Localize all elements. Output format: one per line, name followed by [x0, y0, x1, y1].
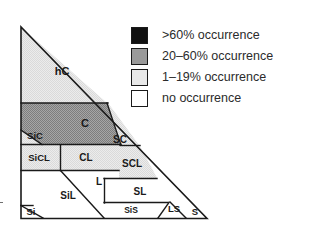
region-label-LS: LS — [168, 203, 180, 214]
page-edge-tick — [0, 202, 3, 203]
region-label-SiCL: SiCL — [28, 152, 50, 163]
region-label-CL: CL — [79, 152, 92, 163]
region-label-SiS: SiS — [124, 205, 138, 215]
legend-label-none: no occurrence — [162, 91, 241, 105]
legend-item-mid: 20–60% occurrence — [131, 47, 273, 65]
region-label-hC: hC — [55, 65, 70, 77]
region-label-S: S — [192, 206, 198, 217]
legend-label-high: >60% occurrence — [162, 28, 260, 42]
region-label-L: L — [96, 176, 102, 187]
legend-label-low: 1–19% occurrence — [162, 70, 266, 84]
region-label-C: C — [81, 117, 89, 129]
legend-item-high: >60% occurrence — [131, 26, 260, 44]
region-label-SiC: SiC — [27, 130, 43, 141]
legend-swatch-none — [131, 90, 148, 107]
legend-item-none: no occurrence — [131, 89, 241, 107]
legend-swatch-low — [131, 69, 148, 86]
region-label-SCL: SCL — [122, 158, 142, 169]
legend-swatch-high — [131, 27, 148, 44]
region-label-SL: SL — [134, 186, 147, 197]
region-label-SC: SC — [113, 134, 127, 145]
region-label-Si: Si — [27, 206, 36, 217]
legend-swatch-mid — [131, 48, 148, 65]
legend-item-low: 1–19% occurrence — [131, 68, 266, 86]
region-label-SiL: SiL — [60, 190, 76, 201]
legend-label-mid: 20–60% occurrence — [162, 49, 273, 63]
